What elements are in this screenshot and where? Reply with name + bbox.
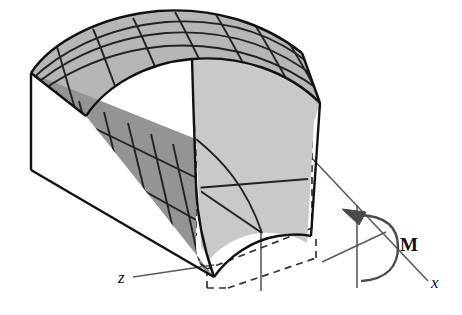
undeformed-base-receding [228, 258, 316, 288]
bending-figure: y x z [0, 0, 462, 315]
z-axis-label: z [117, 268, 125, 287]
moment-symbol: M [322, 205, 418, 288]
x-axis-label: x [430, 273, 439, 292]
moment-label: M [400, 234, 418, 255]
moment-arrowhead [342, 209, 366, 225]
body-side-face [31, 73, 214, 277]
moment-axis-receding [322, 232, 386, 262]
moment-arrow-arc [359, 215, 398, 281]
figure-canvas: y x z [0, 0, 462, 315]
